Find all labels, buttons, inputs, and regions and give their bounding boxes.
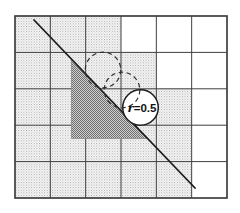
shaded-cell <box>156 125 191 161</box>
shaded-cell <box>86 162 121 198</box>
radius-label: r=0.5 <box>128 101 157 115</box>
empty-cell <box>192 125 227 161</box>
empty-cell <box>192 52 227 88</box>
shaded-cell <box>50 162 85 198</box>
empty-cell <box>192 162 227 198</box>
shaded-cell <box>86 16 121 52</box>
shaded-cell <box>50 16 85 52</box>
radius-label-value: =0.5 <box>134 102 157 114</box>
shaded-cell <box>156 89 191 125</box>
empty-cell <box>192 16 227 52</box>
shaded-cell <box>15 52 50 88</box>
shaded-cell <box>121 162 156 198</box>
shaded-cell <box>15 16 50 52</box>
shaded-cell <box>15 89 50 125</box>
figure-container: r=0.5 <box>0 0 240 213</box>
empty-cell <box>192 89 227 125</box>
empty-cell <box>156 16 191 52</box>
empty-cell <box>121 16 156 52</box>
empty-cell <box>156 52 191 88</box>
figure-svg: r=0.5 <box>0 0 240 213</box>
shaded-cell <box>15 162 50 198</box>
shaded-cell <box>15 125 50 161</box>
